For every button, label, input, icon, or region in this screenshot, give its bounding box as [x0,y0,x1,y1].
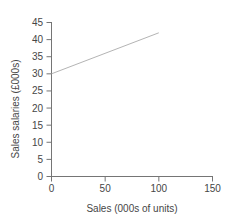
line-chart: 051015202530354045 050100150 Sales salar… [0,0,230,224]
x-tick-label: 100 [150,183,167,194]
y-tick-label: 35 [32,51,44,62]
y-tick-label: 5 [37,154,43,165]
data-line [52,33,159,74]
x-tick-label: 50 [100,183,112,194]
plot-area: 051015202530354045 050100150 Sales salar… [10,17,221,214]
y-tick-label: 15 [32,120,44,131]
chart-container: 051015202530354045 050100150 Sales salar… [0,0,230,224]
y-tick-label: 40 [32,34,44,45]
x-axis-title: Sales (000s of units) [86,203,177,214]
y-tick-label: 0 [37,171,43,182]
y-axis-title: Sales salaries (£000s) [10,60,21,159]
y-tick-label: 25 [32,85,44,96]
y-tick-label: 10 [32,137,44,148]
x-tick-label: 150 [204,183,221,194]
x-axis-ticks: 050100150 [49,177,222,195]
y-tick-label: 30 [32,68,44,79]
y-axis-ticks: 051015202530354045 [32,17,52,182]
x-tick-label: 0 [49,183,55,194]
y-tick-label: 20 [32,103,44,114]
y-tick-label: 45 [32,17,44,28]
